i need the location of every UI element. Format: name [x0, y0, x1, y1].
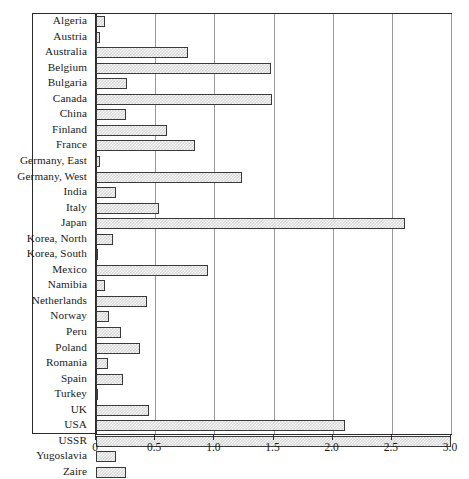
category-label: Peru — [66, 324, 87, 340]
category-label: Korea, North — [27, 231, 87, 247]
category-label: Italy — [66, 200, 87, 216]
bar — [96, 203, 159, 214]
bar — [96, 249, 98, 260]
x-tick — [273, 434, 274, 440]
category-label: Belgium — [48, 60, 87, 76]
category-label: Zaire — [63, 464, 87, 479]
bar — [96, 63, 271, 74]
bar — [96, 156, 100, 167]
category-label: Canada — [53, 91, 87, 107]
bar — [96, 94, 272, 105]
category-label: Mexico — [52, 262, 87, 278]
category-label: Spain — [61, 371, 87, 387]
category-label: China — [60, 106, 87, 122]
category-label: USSR — [59, 433, 87, 449]
category-label: Romania — [46, 355, 87, 371]
x-tick — [154, 434, 155, 440]
bar — [96, 265, 208, 276]
bar — [96, 32, 100, 43]
x-tick-label: 1.0 — [206, 441, 220, 453]
category-label: Yugoslavia — [36, 448, 87, 464]
x-tick — [391, 434, 392, 440]
bar — [96, 343, 140, 354]
bar — [96, 172, 242, 183]
category-axis-labels: AlgeriaAustriaAustraliaBelgiumBulgariaCa… — [0, 13, 91, 433]
x-tick — [332, 434, 333, 440]
category-label: Austria — [53, 29, 87, 45]
bar — [96, 187, 116, 198]
x-tick — [95, 434, 96, 440]
category-label: USA — [64, 417, 87, 433]
bar — [96, 140, 195, 151]
category-label: France — [56, 137, 87, 153]
category-label: Korea, South — [27, 246, 87, 262]
bar — [96, 358, 108, 369]
bar — [96, 451, 116, 462]
x-tick-label: 1.5 — [265, 441, 279, 453]
bar — [96, 109, 126, 120]
bar — [96, 16, 105, 27]
x-tick-label: 0 — [92, 441, 98, 453]
bar — [96, 218, 405, 229]
bar — [96, 296, 147, 307]
category-label: Algeria — [53, 13, 87, 29]
x-tick — [450, 434, 451, 440]
x-tick-label: 2.0 — [324, 441, 338, 453]
bar — [96, 280, 105, 291]
bar — [96, 420, 345, 431]
bar — [96, 234, 113, 245]
category-label: Norway — [50, 308, 87, 324]
category-label: UK — [71, 402, 87, 418]
category-label: Bulgaria — [48, 75, 87, 91]
gridline-3.0 — [451, 14, 452, 434]
category-label: Germany, East — [20, 153, 87, 169]
bar — [96, 311, 109, 322]
bar — [96, 327, 121, 338]
x-tick-label: 3.0 — [443, 441, 457, 453]
category-label: Poland — [55, 340, 87, 356]
category-label: Germany, West — [17, 169, 87, 185]
x-tick-label: 2.5 — [384, 441, 398, 453]
category-label: Australia — [45, 44, 87, 60]
category-label: Turkey — [54, 386, 87, 402]
bar — [96, 405, 149, 416]
bar — [96, 389, 98, 400]
x-tick — [213, 434, 214, 440]
category-label: Netherlands — [32, 293, 87, 309]
bar — [96, 47, 188, 58]
bar — [96, 467, 126, 478]
bar — [96, 78, 127, 89]
bar — [96, 125, 167, 136]
category-label: Namibia — [48, 277, 87, 293]
x-tick-label: 0.5 — [147, 441, 161, 453]
category-label: Finland — [52, 122, 87, 138]
plot-area — [95, 13, 452, 435]
category-label: Japan — [61, 215, 87, 231]
category-label: India — [64, 184, 88, 200]
bar — [96, 374, 123, 385]
